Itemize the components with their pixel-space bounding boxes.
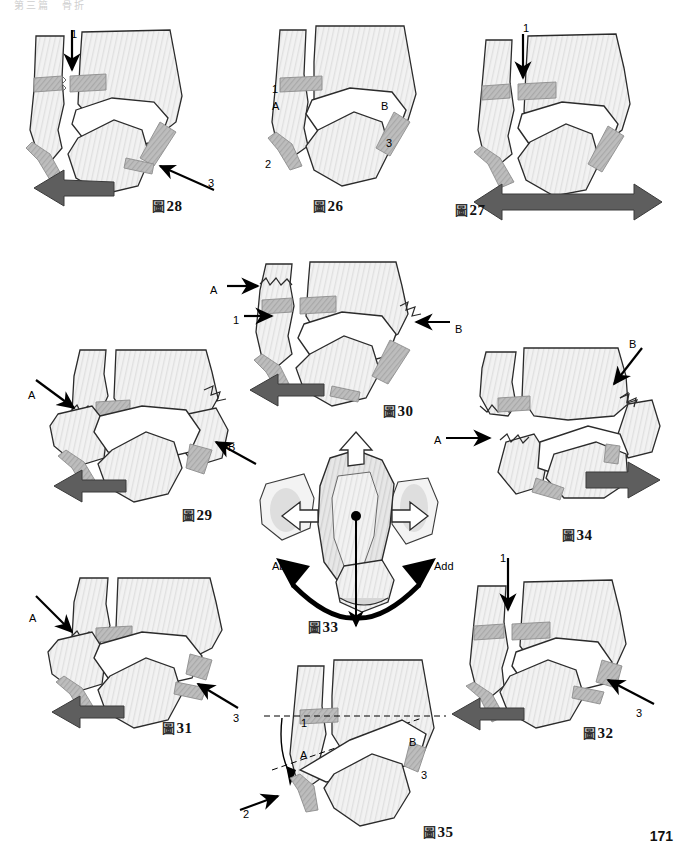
figure-26-caption: 圖26 (313, 196, 344, 215)
tilt-angle-arc (281, 718, 290, 774)
figure-32-caption: 圖32 (583, 723, 614, 742)
fig29-label-A: A (28, 389, 35, 401)
page-number: 171 (650, 828, 673, 844)
fig32-label-3: 3 (636, 707, 642, 719)
figure-35 (276, 658, 471, 838)
figure-number-28: 28 (167, 198, 183, 214)
figure-word-28: 圖 (152, 199, 166, 214)
bone-fibula (478, 40, 514, 164)
adduction-arrowhead (402, 558, 436, 588)
figure-26 (258, 22, 438, 197)
figure-number-32: 32 (598, 725, 614, 741)
figure-word-35: 圖 (423, 825, 437, 840)
fig28-label-3: 3 (208, 177, 214, 189)
figure-30 (232, 262, 447, 412)
running-head: 第三篇 骨折 (14, 0, 86, 12)
figure-34-caption: 圖34 (562, 525, 593, 544)
figure-number-35: 35 (438, 824, 454, 840)
fracture-band-left (474, 624, 504, 640)
figure-31-caption: 圖31 (162, 718, 193, 737)
figure-number-33: 33 (323, 619, 339, 635)
fracture-band-left (262, 298, 292, 314)
figure-30-caption: 圖30 (383, 401, 414, 420)
fig30-label-B: B (455, 323, 462, 335)
figure-29 (38, 350, 238, 515)
fig32-label-1: 1 (500, 552, 506, 564)
figure-35-caption: 圖35 (423, 822, 454, 841)
fracture-band-left (482, 84, 510, 100)
figure-34 (468, 342, 673, 514)
figure-28-caption: 圖28 (152, 196, 183, 215)
fig35-label-A: A (300, 749, 307, 761)
ligament-band (498, 396, 530, 412)
figure-33 (252, 440, 452, 640)
bone-tibia (522, 348, 628, 420)
fig33-label-abduction: Abd (272, 560, 292, 572)
figure-number-31: 31 (177, 720, 193, 736)
figure-number-27: 27 (470, 202, 486, 218)
fracture-band-right (512, 622, 550, 640)
fig34-label-B: B (629, 338, 636, 350)
pointer-arrow-A (36, 596, 72, 632)
pointer-arrow-3 (608, 680, 654, 704)
fracture-band-left (34, 76, 62, 92)
figure-word-26: 圖 (313, 199, 327, 214)
fig31-label-A: A (29, 612, 36, 624)
fracture-band-right (300, 296, 336, 314)
figure-27-caption: 圖27 (455, 200, 486, 219)
figure-number-29: 29 (197, 507, 213, 523)
figure-33-caption: 圖33 (308, 617, 339, 636)
fig26-label-3: 3 (386, 137, 392, 149)
figure-29-caption: 圖29 (182, 505, 213, 524)
ligament-lateral (604, 444, 620, 464)
fig28-label-1: 1 (71, 28, 77, 40)
figure-word-32: 圖 (583, 726, 597, 741)
fig29-label-B: B (228, 441, 235, 453)
figure-28 (18, 18, 223, 213)
figure-31 (30, 578, 245, 743)
fig35-label-1: 1 (301, 717, 307, 729)
fig33-label-adduction: Add (434, 560, 454, 572)
fracture-band-right (518, 82, 556, 100)
fig30-label-1: 1 (233, 314, 239, 326)
fig35-label-B: B (409, 736, 416, 748)
pointer-arrow-A (36, 380, 74, 408)
fig26-label-2: 2 (265, 158, 271, 170)
fig26-label-1: 1 (272, 83, 278, 95)
fig35-label-2: 2 (243, 808, 249, 820)
fig26-label-B: B (381, 100, 388, 112)
fig26-label-A: A (272, 100, 279, 112)
ligament-band-1 (280, 76, 322, 92)
figure-word-33: 圖 (308, 620, 322, 635)
fig27-label-1: 1 (523, 22, 529, 34)
ligament-lateral (186, 444, 212, 474)
figure-27 (466, 30, 676, 210)
fig31-label-3: 3 (233, 712, 239, 724)
figure-word-29: 圖 (182, 508, 196, 523)
figure-word-34: 圖 (562, 528, 576, 543)
fig30-label-A: A (210, 284, 217, 296)
pointer-arrow-3 (198, 684, 238, 708)
pointer-arrow-3 (160, 166, 214, 190)
fig35-label-3: 3 (421, 769, 427, 781)
bone-fibula (470, 586, 508, 696)
bone-fibula (30, 36, 64, 160)
figure-word-27: 圖 (455, 203, 469, 218)
textbook-page: 第三篇 骨折 (0, 0, 683, 858)
figure-number-26: 26 (328, 198, 344, 214)
figure-number-34: 34 (577, 527, 593, 543)
figure-word-31: 圖 (162, 721, 176, 736)
fracture-band-right (70, 74, 106, 92)
figure-word-30: 圖 (383, 404, 397, 419)
figure-number-30: 30 (398, 403, 414, 419)
